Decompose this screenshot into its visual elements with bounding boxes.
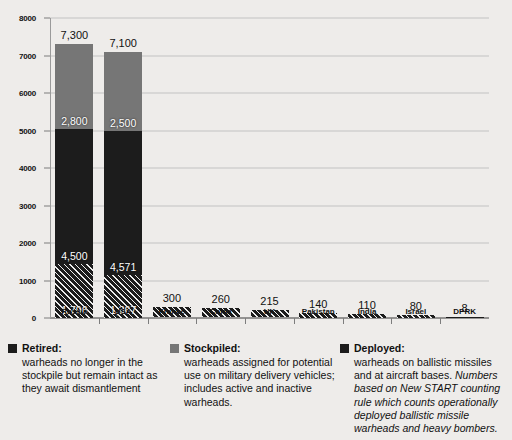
bar-segment-stockpiled[interactable]: 2,500 — [104, 52, 142, 131]
legend-header: Retired: — [8, 342, 168, 355]
x-axis-category-label: DPRK — [428, 307, 502, 316]
legend-title: Retired: — [22, 342, 62, 355]
chart-legend: Retired:warheads no longer in the stockp… — [0, 342, 512, 440]
x-axis-tick-mark — [148, 318, 149, 324]
y-axis-tick-label: 6000 — [19, 89, 36, 98]
legend-item-retired[interactable]: Retired:warheads no longer in the stockp… — [8, 342, 168, 396]
legend-description: warheads on ballistic missiles and at ai… — [354, 356, 512, 435]
y-axis: 010002000300040005000600070008000 — [0, 0, 44, 340]
bar-slot[interactable]: 2,5004,5711,3677,100USA — [104, 52, 142, 318]
y-axis-tick-label: 4000 — [19, 164, 36, 173]
bar-segment-retired[interactable]: 4,500 — [55, 129, 93, 264]
legend-description: warheads assigned for potential use on m… — [184, 356, 342, 409]
legend-header: Stockpiled: — [170, 342, 342, 355]
y-axis-tick-label: 5000 — [19, 126, 36, 135]
bar-segment-value-stockpiled: 2,800 — [55, 115, 93, 127]
bar-group: 2,8004,5001,7967,300Russia2,5004,5711,36… — [50, 0, 489, 340]
y-axis-tick-label: 3000 — [19, 201, 36, 210]
x-axis-tick-mark — [440, 318, 441, 324]
legend-description: warheads no longer in the stockpile but … — [22, 356, 168, 396]
x-axis-tick-mark — [245, 318, 246, 324]
stacked-bar[interactable]: 2,5004,5711,367 — [104, 52, 142, 318]
bar-segment-value-stockpiled: 2,500 — [104, 117, 142, 129]
bar-segment-stockpiled[interactable]: 2,800 — [55, 44, 93, 128]
legend-item-stockpiled[interactable]: Stockpiled:warheads assigned for potenti… — [170, 342, 342, 409]
plot-area: 010002000300040005000600070008000 2,8004… — [0, 0, 512, 340]
bar-total-label: 7,100 — [90, 37, 156, 49]
bar-segment-retired[interactable]: 4,571 — [104, 131, 142, 275]
y-axis-tick-label: 0 — [32, 314, 36, 323]
bar-segment-value-retired: 4,500 — [55, 250, 93, 262]
chart-root: 010002000300040005000600070008000 2,8004… — [0, 0, 512, 440]
y-axis-tick-label: 2000 — [19, 239, 36, 248]
legend-description-text: warheads assigned for potential use on m… — [184, 356, 335, 408]
legend-swatch-icon — [170, 344, 179, 353]
x-axis-tick-mark — [196, 318, 197, 324]
x-axis-tick-mark — [294, 318, 295, 324]
y-axis-tick-label: 8000 — [19, 14, 36, 23]
stacked-bar[interactable]: 2,8004,5001,796 — [55, 44, 93, 318]
bar-segment-value-retired: 4,571 — [104, 261, 142, 273]
bar-slot[interactable]: 2,8004,5001,7967,300Russia — [55, 44, 93, 318]
x-axis-tick-mark — [391, 318, 392, 324]
legend-title: Stockpiled: — [184, 342, 241, 355]
x-axis-tick-mark — [343, 318, 344, 324]
legend-title: Deployed: — [354, 342, 405, 355]
x-axis-tick-mark — [99, 318, 100, 324]
bar-slot[interactable]: 8DPRK — [446, 317, 484, 318]
y-axis-tick-label: 7000 — [19, 51, 36, 60]
stacked-bar[interactable] — [446, 317, 484, 318]
legend-header: Deployed: — [340, 342, 512, 355]
legend-swatch-icon — [340, 344, 349, 353]
y-axis-tick-label: 1000 — [19, 276, 36, 285]
legend-swatch-icon — [8, 344, 17, 353]
legend-description-text: warheads no longer in the stockpile but … — [22, 356, 157, 394]
legend-item-deployed[interactable]: Deployed:warheads on ballistic missiles … — [340, 342, 512, 435]
